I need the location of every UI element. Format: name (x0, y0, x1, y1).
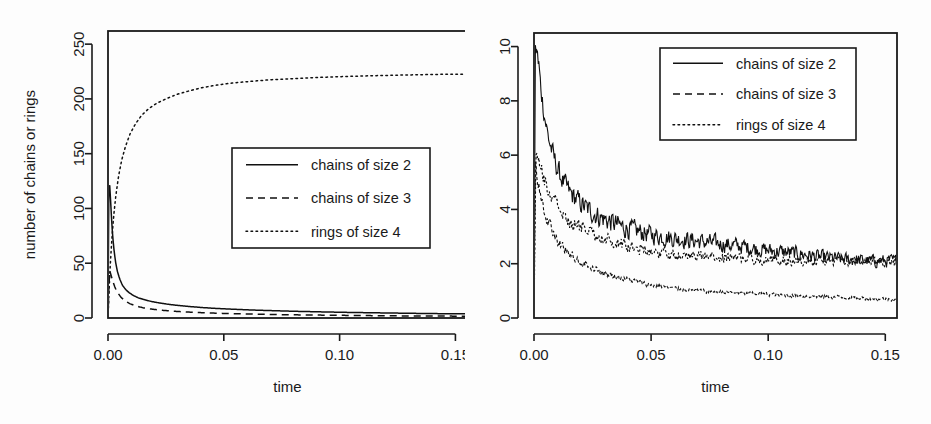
y-axis-title: number of chains or rings (21, 90, 38, 259)
x-tick-label: 0.05 (636, 346, 665, 363)
chart-legend: chains of size 2chains of size 3rings of… (660, 48, 856, 140)
x-axis-title: time (701, 378, 729, 395)
chart-svg: 0.000.050.100.150246810timechains of siz… (466, 0, 931, 424)
y-tick-label: 250 (70, 32, 87, 57)
x-tick-label: 0.15 (441, 346, 465, 363)
y-tick-label: 6 (496, 151, 513, 159)
legend-label: chains of size 2 (736, 56, 836, 72)
chart-panel-left: 0.000.050.100.15050100150200250timenumbe… (0, 0, 465, 424)
x-tick-label: 0.00 (519, 346, 548, 363)
chart-panel-right: 0.000.050.100.150246810timechains of siz… (466, 0, 931, 424)
x-tick-label: 0.15 (871, 346, 900, 363)
y-tick-label: 0 (496, 314, 513, 322)
legend-label: rings of size 4 (736, 117, 825, 133)
legend-label: chains of size 2 (311, 157, 411, 173)
y-tick-label: 0 (70, 314, 87, 322)
y-tick-label: 100 (70, 196, 87, 221)
x-tick-label: 0.05 (209, 346, 238, 363)
y-tick-label: 10 (496, 38, 513, 55)
x-axis-title: time (273, 378, 301, 395)
x-tick-label: 0.10 (754, 346, 783, 363)
y-tick-label: 8 (496, 97, 513, 105)
chart-legend: chains of size 2chains of size 3rings of… (232, 148, 430, 248)
x-tick-label: 0.10 (325, 346, 354, 363)
y-tick-label: 2 (496, 260, 513, 268)
y-tick-label: 150 (70, 141, 87, 166)
y-tick-label: 50 (70, 255, 87, 272)
figure-container: 0.000.050.100.15050100150200250timenumbe… (0, 0, 931, 424)
chart-svg: 0.000.050.100.15050100150200250timenumbe… (0, 0, 465, 424)
x-tick-label: 0.00 (93, 346, 122, 363)
legend-label: chains of size 3 (311, 190, 411, 206)
legend-label: chains of size 3 (736, 86, 836, 102)
legend-label: rings of size 4 (311, 224, 400, 240)
y-tick-label: 200 (70, 86, 87, 111)
y-tick-label: 4 (496, 205, 513, 213)
